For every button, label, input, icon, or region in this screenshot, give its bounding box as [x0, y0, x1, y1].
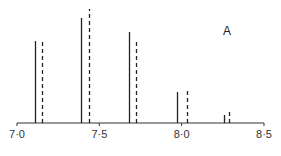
x-tick-label: 7·0 [9, 128, 25, 140]
x-tick-label: 8·0 [174, 128, 190, 140]
panel-label: A [223, 24, 231, 38]
x-tick-label: 8·5 [256, 128, 272, 140]
spectrum-sticks [36, 9, 230, 123]
x-tick-label: 7·5 [91, 128, 107, 140]
stick-spectrum-chart [0, 0, 281, 156]
